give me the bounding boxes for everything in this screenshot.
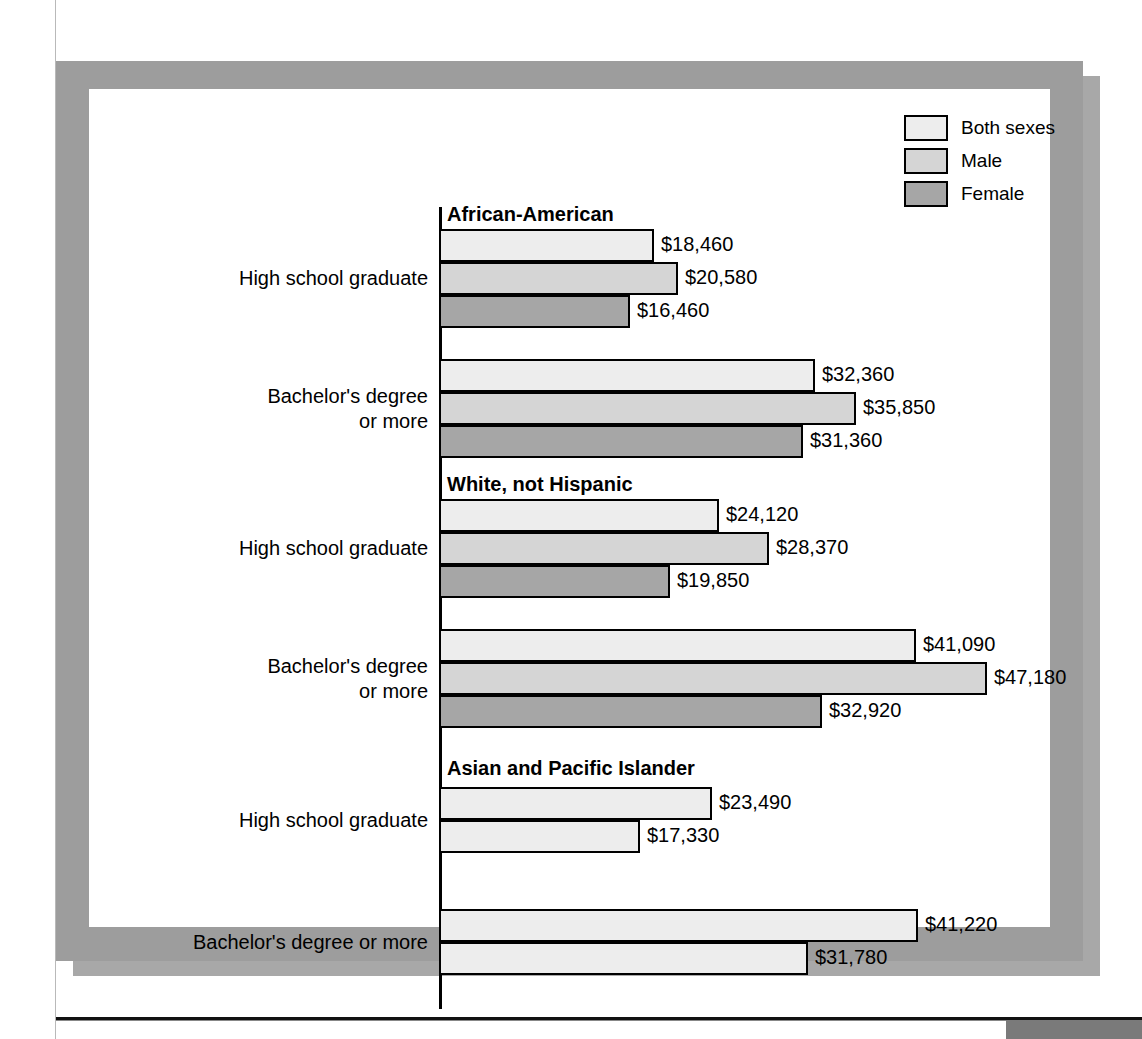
panel-title: African-American	[447, 203, 614, 226]
panel-title: Asian and Pacific Islander	[447, 757, 695, 780]
bar[interactable]	[439, 629, 916, 662]
bar-value-label: $41,220	[925, 913, 997, 936]
bar-value-label: $20,580	[685, 266, 757, 289]
bar-value-label: $18,460	[661, 233, 733, 256]
bar-group-label-line: High school graduate	[118, 266, 428, 291]
bar-row: $31,780	[439, 942, 1050, 975]
grouped-bar-chart: Both sexes Male Female African-AmericanH…	[89, 89, 1050, 927]
bar[interactable]	[439, 229, 654, 262]
bar-row: $24,120	[439, 499, 1050, 532]
bar-group-label-line: Bachelor's degree	[118, 384, 428, 409]
bar-group-label: Bachelor's degreeor more	[118, 384, 428, 434]
bar[interactable]	[439, 565, 670, 598]
bar-value-label: $19,850	[677, 569, 749, 592]
bar-group-label-line: High school graduate	[118, 808, 428, 833]
bar-row: $35,850	[439, 392, 1050, 425]
legend-item-male: Male	[904, 144, 1055, 177]
bar-value-label: $28,370	[776, 536, 848, 559]
bar-group-label-line: High school graduate	[118, 536, 428, 561]
bar-group-label: Bachelor's degree or more	[96, 930, 428, 955]
bar[interactable]	[439, 942, 808, 975]
chart-legend: Both sexes Male Female	[904, 111, 1055, 210]
bar-group-label: High school graduate	[118, 808, 428, 833]
bar-group-label-line: or more	[118, 679, 428, 704]
legend-item-both-sexes: Both sexes	[904, 111, 1055, 144]
bar-value-label: $41,090	[923, 633, 995, 656]
legend-label-male: Male	[961, 151, 1002, 170]
bar[interactable]	[439, 499, 719, 532]
bar[interactable]	[439, 532, 769, 565]
legend-label-female: Female	[961, 184, 1024, 203]
bar-group-label-line: Bachelor's degree or more	[96, 930, 428, 955]
legend-swatch-male	[904, 148, 948, 174]
bar-value-label: $24,120	[726, 503, 798, 526]
bar-row: $41,090	[439, 629, 1050, 662]
bar-row: $18,460	[439, 229, 1050, 262]
legend-label-both-sexes: Both sexes	[961, 118, 1055, 137]
bar-value-label: $35,850	[863, 396, 935, 419]
bar-value-label: $31,360	[810, 429, 882, 452]
legend-swatch-both-sexes	[904, 115, 948, 141]
bar-row: $19,850	[439, 565, 1050, 598]
figure-frame: Both sexes Male Female African-AmericanH…	[56, 61, 1083, 961]
bar-value-label: $32,360	[822, 363, 894, 386]
bar-group-label-line: or more	[118, 409, 428, 434]
panel-title: White, not Hispanic	[447, 473, 633, 496]
bar-row: $16,460	[439, 295, 1050, 328]
bar-value-label: $47,180	[994, 666, 1066, 689]
bar-row: $28,370	[439, 532, 1050, 565]
bar-row: $32,360	[439, 359, 1050, 392]
bar-row: $41,220	[439, 909, 1050, 942]
bar[interactable]	[439, 662, 987, 695]
bar-value-label: $17,330	[647, 824, 719, 847]
bar-group-label: High school graduate	[118, 266, 428, 291]
legend-swatch-female	[904, 181, 948, 207]
bar-row: $32,920	[439, 695, 1050, 728]
bar-value-label: $16,460	[637, 299, 709, 322]
bar[interactable]	[439, 909, 918, 942]
page-bottom-rule-shadow	[56, 1020, 1142, 1021]
bar[interactable]	[439, 359, 815, 392]
bar-group-label-line: Bachelor's degree	[118, 654, 428, 679]
bar-row: $31,360	[439, 425, 1050, 458]
bar[interactable]	[439, 262, 678, 295]
bar-row: $20,580	[439, 262, 1050, 295]
bar-value-label: $31,780	[815, 946, 887, 969]
legend-item-female: Female	[904, 177, 1055, 210]
bar-group-label: Bachelor's degreeor more	[118, 654, 428, 704]
page-corner-block	[1006, 1020, 1142, 1039]
bar-value-label: $32,920	[829, 699, 901, 722]
figure-plate: Both sexes Male Female African-AmericanH…	[89, 89, 1050, 927]
bar-value-label: $23,490	[719, 791, 791, 814]
bar[interactable]	[439, 787, 712, 820]
bar[interactable]	[439, 295, 630, 328]
bar[interactable]	[439, 425, 803, 458]
bar[interactable]	[439, 695, 822, 728]
bar-row: $23,490	[439, 787, 1050, 820]
bar[interactable]	[439, 392, 856, 425]
bar-row: $17,330	[439, 820, 1050, 853]
bar-group-label: High school graduate	[118, 536, 428, 561]
bar[interactable]	[439, 820, 640, 853]
bar-row: $47,180	[439, 662, 1050, 695]
